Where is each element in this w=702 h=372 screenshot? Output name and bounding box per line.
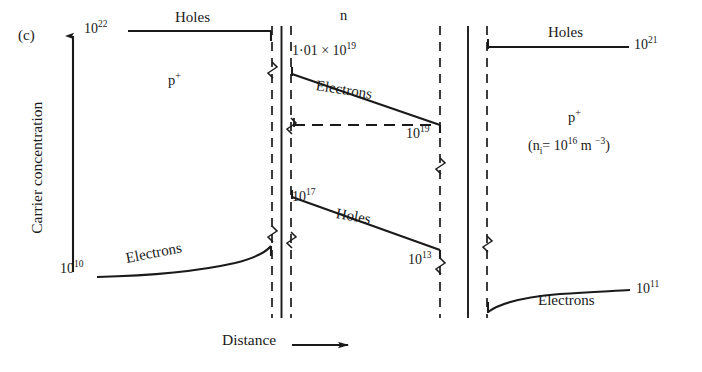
curve-holes-right-pplus (488, 39, 629, 49)
y-axis-label: Carrier concentration (29, 73, 45, 263)
curve-label-electrons-right: Electrons (538, 293, 595, 308)
curve-electrons-left-pplus (97, 246, 271, 277)
value-label-holes-right: 1021 (634, 38, 658, 52)
curve-label-holes-left: Holes (175, 10, 210, 25)
value-label-electrons-left: 1010 (60, 262, 84, 276)
value-label-holes-left: 1022 (84, 22, 108, 36)
right-junction (436, 26, 492, 318)
carrier-concentration-figure: (c) Carrier concentration Distance 1022 … (0, 0, 702, 372)
value-label-electrons-right: 1011 (636, 282, 659, 296)
intrinsic-concentration-note: (ni= 1016 m −3) (528, 139, 610, 153)
curve-holes-left-pplus (128, 31, 271, 41)
value-label-holes-n-start: 1017 (292, 190, 316, 204)
region-label-n: n (340, 8, 347, 23)
value-label-electrons-n-end: 1019 (406, 127, 430, 141)
value-label-holes-n-end: 1013 (408, 253, 432, 267)
curve-label-holes-right: Holes (548, 25, 583, 40)
panel-letter: (c) (18, 28, 35, 43)
value-label-electrons-n-start: 1·01 × 1019 (292, 44, 356, 58)
x-axis-label: Distance (222, 332, 276, 348)
region-label-left-pplus: p+ (168, 73, 181, 88)
region-label-right-pplus: p+ (568, 110, 581, 125)
